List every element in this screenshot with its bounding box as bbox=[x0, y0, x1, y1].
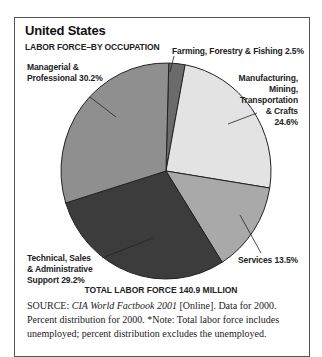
label-technical-line1: Technical, Sales bbox=[27, 253, 93, 264]
source-label: SOURCE: bbox=[27, 300, 69, 311]
label-technical: Technical, Sales & Administrative Suppor… bbox=[27, 253, 93, 286]
label-manufacturing-line4: & Crafts bbox=[210, 106, 298, 117]
label-manufacturing-line1: Manufacturing, bbox=[210, 73, 298, 84]
label-managerial-line1: Managerial & bbox=[27, 62, 103, 73]
label-technical-line2: & Administrative bbox=[27, 264, 93, 275]
label-manufacturing-line5: 24.6% bbox=[210, 117, 298, 128]
label-managerial: Managerial & Professional 30.2% bbox=[27, 62, 103, 84]
label-manufacturing: Manufacturing, Mining, Transportation & … bbox=[210, 73, 298, 128]
source-title: CIA World Factbook 2001 bbox=[72, 300, 177, 311]
label-manufacturing-line3: Transportation bbox=[210, 95, 298, 106]
total-labor-force: TOTAL LABOR FORCE 140.9 MILLION bbox=[0, 285, 322, 295]
source-note: SOURCE: CIA World Factbook 2001 [Online]… bbox=[27, 299, 307, 341]
label-farming: Farming, Forestry & Fishing 2.5% bbox=[172, 46, 304, 57]
label-services: Services 13.5% bbox=[238, 255, 298, 266]
label-manufacturing-line2: Mining, bbox=[210, 84, 298, 95]
label-managerial-line2: Professional 30.2% bbox=[27, 73, 103, 84]
